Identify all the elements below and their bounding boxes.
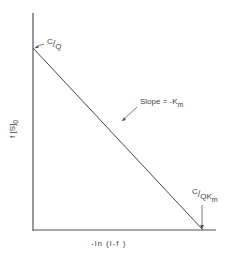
slope-label: Slope = -Km [140,98,183,106]
x-intercept-label: C/QKm [192,190,218,199]
y-intercept-arrowhead [35,45,39,48]
y-axis-label: f [S]0 [8,120,17,138]
y-intercept-label: C/Q [47,40,62,49]
diagram-canvas [0,0,237,257]
x-axis-label: -ln (l-f ) [91,240,126,248]
regression-line [33,48,203,230]
